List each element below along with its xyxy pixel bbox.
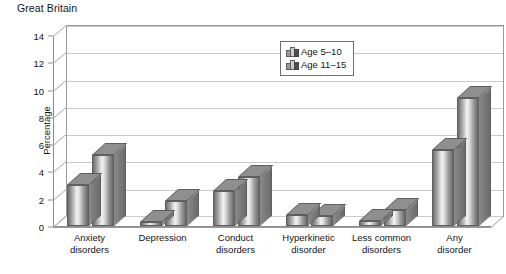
bar-chart-icon — [286, 60, 297, 70]
bar — [359, 221, 381, 226]
bar-front-face — [286, 215, 308, 226]
bar-chart: Great Britain Percentage 02468101214 Anx… — [0, 0, 506, 274]
bar — [286, 215, 308, 226]
bar-front-face — [140, 222, 162, 226]
legend-item: Age 5–10 — [286, 45, 346, 58]
y-tick-label: 0 — [39, 222, 44, 233]
bar-front-face — [432, 150, 454, 226]
x-axis-label: Anydisorder — [412, 232, 497, 255]
bar-front-face — [213, 191, 235, 226]
bar — [432, 150, 454, 226]
legend: Age 5–10 Age 11–15 — [280, 41, 354, 76]
y-tick-label: 4 — [39, 167, 44, 178]
y-tick-label: 8 — [39, 112, 44, 123]
bar — [213, 191, 235, 226]
bar-front-face — [67, 185, 89, 226]
legend-label: Age 5–10 — [301, 46, 342, 57]
y-tick-label: 6 — [39, 140, 44, 151]
bar-side-face — [114, 145, 126, 226]
bar-side-face — [454, 139, 466, 226]
y-tick-label: 2 — [39, 194, 44, 205]
bar-chart-icon — [286, 47, 297, 57]
bar-front-face — [359, 221, 381, 226]
y-tick-label: 10 — [33, 85, 44, 96]
legend-label: Age 11–15 — [301, 59, 346, 70]
plot-area — [53, 36, 491, 227]
y-tick-label: 14 — [33, 31, 44, 42]
bar — [140, 222, 162, 226]
bar — [67, 185, 89, 226]
legend-item: Age 11–15 — [286, 58, 346, 71]
y-tick-label: 12 — [33, 58, 44, 69]
gridline — [67, 26, 503, 27]
x-axis-labels: AnxietydisordersDepressionConductdisorde… — [0, 232, 506, 272]
chart-title: Great Britain — [17, 2, 77, 14]
bar-side-face — [479, 87, 491, 226]
bar-series-container — [54, 36, 491, 226]
